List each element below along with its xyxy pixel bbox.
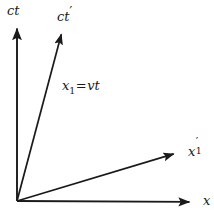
axis-line-ct-prime: [17, 34, 61, 201]
diagram-canvas: [0, 0, 214, 211]
prime-mark-ct: ′: [70, 5, 73, 19]
worldline-equation-label: x1=vt: [62, 79, 100, 95]
axis-line-x: [17, 201, 190, 202]
axis-label-ct-text: ct: [7, 3, 20, 18]
axis-label-x: x: [203, 194, 210, 207]
axis-label-ct-prime: ct′: [57, 6, 72, 23]
axis-label-x-prime-1: x′1: [188, 143, 195, 158]
axis-line-x-prime-1: [17, 154, 174, 201]
axis-label-x-prime-base: x: [188, 144, 195, 159]
subscript-one-x-prime: 1: [196, 146, 202, 155]
axis-label-ct-prime-base: ct: [57, 9, 70, 24]
axis-label-ct: ct: [7, 4, 20, 17]
equation-rhs: vt: [87, 78, 100, 93]
minkowski-diagram-figure: ct ct′ x′1 x x1=vt: [0, 0, 214, 211]
equals-sign: =: [75, 78, 87, 93]
axis-label-x-text: x: [203, 193, 210, 208]
